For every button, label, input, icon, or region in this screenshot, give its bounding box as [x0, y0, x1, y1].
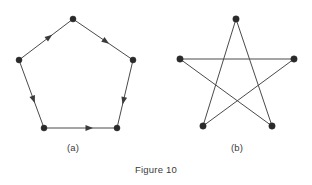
panel-b-label: (b) — [231, 142, 243, 153]
graph-vertex — [41, 125, 47, 131]
graph-vertex — [233, 16, 239, 22]
graph-edge — [203, 59, 294, 126]
panel-a-label: (a) — [67, 142, 79, 153]
graph-edge — [19, 19, 73, 60]
figure-10-illustration: (a) (b) Figure 10 — [0, 0, 312, 185]
graph-edge — [19, 60, 44, 128]
edge-arrowhead-icon — [121, 96, 127, 104]
figure-caption: Figure 10 — [135, 164, 177, 175]
graph-vertex — [291, 56, 297, 62]
panel-b-pentagram — [177, 16, 297, 129]
graph-edge — [203, 19, 236, 126]
edge-arrowhead-icon — [101, 37, 109, 44]
graph-edge — [180, 59, 272, 126]
panel-a-directed-pentagon — [16, 16, 136, 131]
graph-vertex — [177, 56, 183, 62]
graph-edge — [236, 19, 272, 126]
graph-vertex — [200, 123, 206, 129]
graph-vertex — [269, 123, 275, 129]
edge-arrowhead-icon — [45, 35, 53, 42]
graph-vertex — [130, 57, 136, 63]
graph-diagram-canvas — [0, 0, 312, 185]
graph-vertex — [114, 125, 120, 131]
graph-vertex — [16, 57, 22, 63]
graph-vertex — [70, 16, 76, 22]
edge-arrowhead-icon — [29, 95, 34, 103]
edge-arrowhead-icon — [86, 125, 94, 131]
graph-edge — [117, 60, 133, 128]
